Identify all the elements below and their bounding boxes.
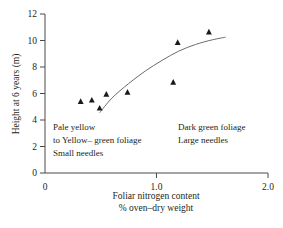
data-point-4 — [125, 89, 131, 95]
annotation-right-line-2: Large needles — [178, 135, 229, 145]
y-axis-ticks — [40, 14, 45, 173]
data-point-1 — [89, 97, 95, 103]
data-point-0 — [78, 98, 84, 104]
annotation-left-line-1: Pale yellow — [53, 122, 96, 132]
y-axis-title: Height at 6 years (m) — [11, 54, 22, 135]
annotation-left-line-2: to Yellow– green foliage — [53, 135, 141, 145]
y-tick-label-2: 2 — [32, 142, 37, 152]
annotation-left: Pale yellow to Yellow– green foliage Sma… — [53, 122, 141, 158]
y-tick-label-6: 6 — [32, 89, 37, 99]
fitted-trend-curve — [100, 37, 226, 113]
x-tick-label-0: 0 — [43, 182, 48, 192]
y-tick-label-4: 4 — [32, 115, 37, 125]
annotation-right: Dark green foliage Large needles — [178, 122, 245, 145]
y-tick-label-8: 8 — [32, 62, 37, 72]
data-point-6 — [175, 39, 181, 45]
x-axis-ticks — [157, 173, 269, 178]
annotation-right-line-1: Dark green foliage — [178, 122, 245, 132]
data-point-2 — [97, 105, 103, 111]
y-axis-tick-labels: 024681012 — [28, 9, 38, 178]
x-tick-label-2.0: 2.0 — [262, 182, 274, 192]
chart-figure: 024681012 01.02.0 Height at 6 years (m) … — [0, 0, 283, 228]
y-tick-label-0: 0 — [32, 168, 37, 178]
x-axis-title-line2: % oven–dry weight — [119, 203, 194, 213]
y-tick-label-10: 10 — [28, 36, 38, 46]
data-point-markers — [78, 29, 212, 111]
data-point-5 — [170, 79, 176, 85]
data-point-7 — [206, 29, 212, 35]
x-axis-title-line1: Foliar nitrogen content — [112, 191, 199, 201]
scatter-plot-svg: 024681012 01.02.0 Height at 6 years (m) … — [0, 0, 283, 228]
annotation-left-line-3: Small needles — [53, 148, 104, 158]
data-point-3 — [103, 91, 109, 97]
y-tick-label-12: 12 — [28, 9, 38, 19]
